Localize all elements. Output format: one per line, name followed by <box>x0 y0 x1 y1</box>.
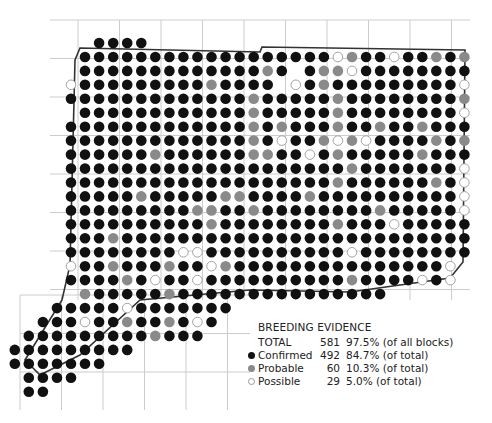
confirmed-block-dot <box>220 149 231 160</box>
probable-block-dot <box>248 149 259 160</box>
confirmed-block-dot <box>234 149 245 160</box>
confirmed-block-dot <box>361 52 372 63</box>
confirmed-block-dot <box>262 121 273 132</box>
confirmed-block-dot <box>305 205 316 216</box>
confirmed-block-dot <box>291 52 302 63</box>
confirmed-block-dot <box>220 247 231 258</box>
confirmed-block-dot <box>262 135 273 146</box>
confirmed-block-dot <box>431 80 442 91</box>
confirmed-block-dot <box>277 261 288 272</box>
legend-total-count: 581 <box>310 336 340 349</box>
confirmed-block-dot <box>445 80 456 91</box>
confirmed-block-dot <box>459 247 470 258</box>
confirmed-block-dot <box>248 247 259 258</box>
probable-block-dot <box>277 121 288 132</box>
confirmed-block-dot <box>277 247 288 258</box>
confirmed-block-dot <box>178 191 189 202</box>
confirmed-block-dot <box>150 163 161 174</box>
possible-block-dot <box>347 248 357 258</box>
confirmed-block-dot <box>459 149 470 160</box>
confirmed-block-dot <box>319 177 330 188</box>
confirmed-block-dot <box>220 205 231 216</box>
confirmed-block-dot <box>38 331 49 342</box>
confirmed-block-dot <box>38 373 49 384</box>
confirmed-block-dot <box>431 108 442 119</box>
confirmed-block-dot <box>333 275 344 286</box>
confirmed-block-dot <box>66 205 77 216</box>
confirmed-block-dot <box>122 149 133 160</box>
confirmed-block-dot <box>234 261 245 272</box>
confirmed-block-dot <box>178 177 189 188</box>
probable-block-dot <box>347 275 358 286</box>
confirmed-block-dot <box>234 233 245 244</box>
confirmed-block-dot <box>403 261 414 272</box>
confirmed-block-dot <box>305 94 316 105</box>
confirmed-block-dot <box>319 205 330 216</box>
confirmed-block-dot <box>164 331 175 342</box>
probable-block-dot <box>333 149 344 160</box>
confirmed-block-dot <box>108 94 119 105</box>
confirmed-block-dot <box>192 191 203 202</box>
confirmed-block-dot <box>361 177 372 188</box>
possible-block-dot <box>460 108 470 118</box>
probable-block-dot <box>248 94 259 105</box>
confirmed-block-dot <box>445 149 456 160</box>
confirmed-block-dot <box>277 219 288 230</box>
probable-block-dot <box>248 205 259 216</box>
confirmed-block-dot <box>122 121 133 132</box>
confirmed-block-dot <box>220 233 231 244</box>
confirmed-block-dot <box>52 359 63 370</box>
legend-count: 492 <box>310 349 340 362</box>
confirmed-block-dot <box>206 108 217 119</box>
confirmed-block-dot <box>291 233 302 244</box>
confirmed-block-dot <box>417 80 428 91</box>
confirmed-block-dot <box>108 191 119 202</box>
confirmed-block-dot <box>150 191 161 202</box>
confirmed-block-dot <box>431 247 442 258</box>
confirmed-block-dot <box>248 191 259 202</box>
confirmed-block-dot <box>319 261 330 272</box>
probable-block-dot <box>333 66 344 77</box>
confirmed-block-dot <box>108 121 119 132</box>
confirmed-block-dot <box>80 191 91 202</box>
legend-title: BREEDING EVIDENCE <box>258 321 371 334</box>
confirmed-block-dot <box>262 163 273 174</box>
probable-block-dot <box>234 191 245 202</box>
confirmed-block-dot <box>136 135 147 146</box>
confirmed-block-dot <box>94 177 105 188</box>
confirmed-block-dot <box>206 191 217 202</box>
confirmed-block-dot <box>403 219 414 230</box>
probable-block-dot <box>206 80 217 91</box>
confirmed-block-dot <box>178 289 189 300</box>
confirmed-block-dot <box>150 261 161 272</box>
confirmed-block-dot <box>192 177 203 188</box>
confirmed-block-dot <box>94 233 105 244</box>
legend-label: Probable <box>258 362 304 375</box>
confirmed-block-dot <box>66 303 77 314</box>
confirmed-block-dot <box>459 121 470 132</box>
confirmed-block-dot <box>108 219 119 230</box>
confirmed-block-dot <box>164 233 175 244</box>
probable-block-dot <box>122 275 133 286</box>
confirmed-block-dot <box>262 205 273 216</box>
confirmed-block-dot <box>445 94 456 105</box>
possible-block-dot <box>389 220 399 230</box>
confirmed-block-dot <box>277 289 288 300</box>
confirmed-block-dot <box>361 80 372 91</box>
confirmed-block-dot <box>417 233 428 244</box>
confirmed-block-dot <box>150 121 161 132</box>
confirmed-block-dot <box>389 163 400 174</box>
confirmed-block-dot <box>108 177 119 188</box>
confirmed-block-dot <box>347 191 358 202</box>
confirmed-block-dot <box>178 317 189 328</box>
confirmed-block-dot <box>445 247 456 258</box>
confirmed-block-dot <box>262 261 273 272</box>
confirmed-block-dot <box>66 135 77 146</box>
confirmed-block-dot <box>291 261 302 272</box>
confirmed-block-dot <box>66 149 77 160</box>
probable-block-dot <box>206 205 217 216</box>
confirmed-block-dot <box>178 261 189 272</box>
confirmed-block-dot <box>164 191 175 202</box>
confirmed-block-dot <box>389 94 400 105</box>
probable-block-dot <box>248 135 259 146</box>
